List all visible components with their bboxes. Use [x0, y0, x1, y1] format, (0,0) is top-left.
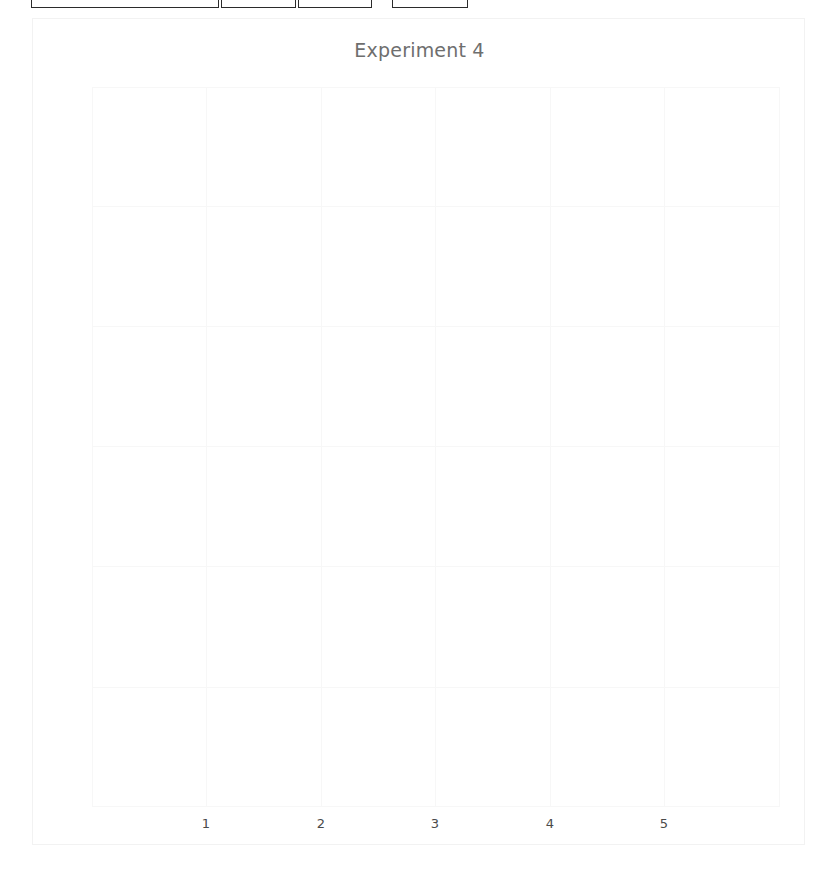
plot-area[interactable]	[92, 87, 780, 807]
toolbar-button-2[interactable]	[221, 0, 296, 8]
plot-grid	[92, 87, 780, 807]
chart-title: Experiment 4	[33, 39, 806, 61]
x-tick-label-2: 2	[301, 816, 341, 831]
toolbar-button-1[interactable]	[31, 0, 219, 8]
toolbar-button-3[interactable]	[298, 0, 372, 8]
toolbar-strip	[0, 0, 835, 10]
x-tick-label-1: 1	[186, 816, 226, 831]
toolbar-button-4[interactable]	[392, 0, 468, 8]
x-tick-label-4: 4	[530, 816, 570, 831]
x-axis-tick-labels: 12345	[33, 807, 806, 837]
x-tick-label-5: 5	[644, 816, 684, 831]
x-tick-label-3: 3	[415, 816, 455, 831]
chart-panel: Experiment 4 12345	[32, 18, 805, 845]
